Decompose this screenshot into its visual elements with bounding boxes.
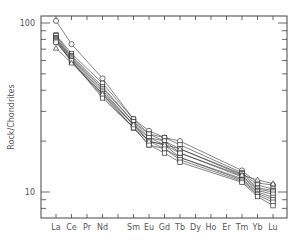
x-tick-label: Tb [174, 223, 185, 232]
series-layer [53, 18, 275, 208]
x-tick-label: Lu [268, 223, 277, 232]
data-series [53, 45, 275, 185]
axis-ticks [41, 16, 287, 218]
data-series [54, 33, 275, 192]
x-tick-label: Eu [144, 223, 154, 232]
triangle-marker [53, 45, 58, 50]
x-tick-label: Gd [159, 223, 170, 232]
data-series [54, 39, 275, 204]
x-tick-label: Sm [127, 223, 140, 232]
square-marker [240, 180, 244, 184]
x-tick-label: Tm [235, 223, 249, 232]
series-line [56, 48, 273, 184]
series-line [56, 36, 273, 191]
tick-labels: LaCePrNdSmEuGdTbDyHoErTmYbLu10100 [20, 19, 278, 232]
plot-frame [41, 16, 287, 218]
x-tick-label: Ce [66, 223, 77, 232]
series-line [56, 21, 273, 185]
x-tick-label: La [51, 223, 60, 232]
circle-marker [100, 76, 105, 81]
circle-marker [53, 18, 58, 23]
x-tick-label: Er [222, 223, 231, 232]
data-series [53, 18, 275, 187]
data-series [54, 40, 275, 208]
y-axis-title: Rock/Chondrites [7, 84, 16, 149]
circle-marker [69, 42, 74, 47]
x-tick-label: Nd [97, 223, 108, 232]
square-marker [162, 151, 166, 155]
square-marker [271, 203, 275, 207]
ree-spider-diagram: Rock/Chondrites LaCePrNdSmEuGdTbDyHoErTm… [0, 0, 297, 241]
y-tick-label: 100 [20, 19, 35, 28]
x-tick-label: Ho [206, 223, 217, 232]
square-marker [178, 151, 182, 155]
square-marker [255, 194, 259, 198]
y-tick-label: 10 [25, 188, 35, 197]
square-marker [162, 147, 166, 151]
y-axis-label: Rock/Chondrites [7, 84, 16, 149]
x-tick-label: Pr [83, 223, 92, 232]
square-marker [100, 96, 104, 100]
series-line [56, 35, 273, 189]
square-marker [54, 40, 58, 44]
square-marker [178, 160, 182, 164]
x-tick-label: Dy [190, 223, 201, 232]
x-tick-label: Yb [252, 223, 263, 232]
